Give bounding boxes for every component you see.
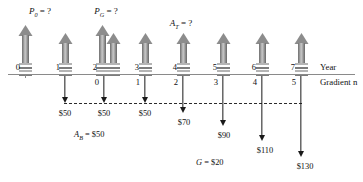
down-arrow-year-3-50 (141, 76, 149, 104)
gradient-tick-label-4: 4 (253, 78, 257, 87)
label-p0-value: = ? (38, 6, 52, 16)
label-ab-value: = $50 (83, 130, 104, 139)
amount-label-year-1: $50 (59, 110, 72, 118)
up-arrow-year-7 (294, 33, 309, 73)
down-arrow-year-7-130 (297, 76, 305, 158)
down-arrow-year-1-50 (61, 76, 69, 104)
down-arrow-year-5-90 (219, 76, 227, 127)
amount-label-year-4: $70 (178, 119, 191, 127)
axis-label-year: Year (320, 63, 336, 72)
year-tick-label-3: 3 (135, 63, 139, 72)
gradient-tick-label-2: 2 (174, 78, 178, 87)
up-arrow-year-4 (176, 33, 191, 73)
up-arrow-year-5 (216, 33, 231, 73)
gradient-tick-label-5: 5 (292, 78, 296, 87)
amount-label-year-3: $50 (139, 110, 152, 118)
label-at-value: = ? (179, 18, 193, 28)
axis-stub-tick-year-0 (25, 74, 26, 78)
down-arrow-year-2-50 (100, 76, 108, 104)
year-tick-label-7: 7 (291, 63, 295, 72)
label-ab-base-annuity: AB = $50 (74, 131, 104, 141)
year-tick-label-5: 5 (213, 63, 217, 72)
amount-label-year-6: $110 (257, 147, 273, 155)
label-pg-gradient-present-worth: PG = ? (94, 7, 118, 18)
axis-label-gradient-text: Gradient n (320, 77, 357, 87)
gradient-tick-label-1: 1 (136, 78, 140, 87)
amount-label-year-2: $50 (98, 110, 111, 118)
amount-label-year-5: $90 (218, 132, 231, 140)
label-at-total-annual: AT = ? (170, 19, 193, 30)
time-axis-line (8, 74, 355, 75)
year-tick-label-6: 6 (252, 63, 256, 72)
up-arrow-year-6 (255, 33, 270, 73)
label-p0-present-worth: P0 = ? (29, 7, 51, 18)
label-pg-value: = ? (104, 6, 118, 16)
label-g-gradient-amount: G = $20 (196, 159, 224, 167)
year-tick-label-4: 4 (173, 63, 177, 72)
year-tick-label-1: 1 (56, 63, 60, 72)
amount-label-year-7: $130 (297, 163, 314, 171)
year-tick-label-2: 2 (93, 63, 97, 72)
cash-flow-diagram: P0 = ? PG = ? AT = ? (0, 0, 363, 182)
gradient-tick-label-3: 3 (214, 78, 218, 87)
up-arrow-year-2-short (106, 33, 121, 73)
up-arrow-year-3 (138, 33, 153, 73)
down-arrow-year-6-110 (258, 76, 266, 142)
axis-label-gradient-n: Gradient n (320, 78, 357, 87)
year-tick-label-0: 0 (16, 63, 20, 72)
down-arrow-year-4-70 (179, 76, 187, 114)
gradient-tick-label-0: 0 (95, 78, 99, 87)
label-g-value: = $20 (202, 158, 223, 167)
